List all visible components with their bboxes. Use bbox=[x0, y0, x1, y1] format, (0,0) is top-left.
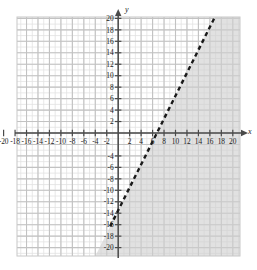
x-tick-label: 2 bbox=[128, 137, 132, 146]
x-tick-label: 12 bbox=[183, 137, 191, 146]
x-tick-label: -10 bbox=[56, 137, 66, 146]
y-tick-label: -20 bbox=[104, 243, 114, 252]
y-tick-label: 8 bbox=[110, 83, 114, 92]
y-tick-label: -18 bbox=[104, 232, 114, 241]
y-tick-label: -8 bbox=[107, 175, 113, 184]
x-tick-label: 10 bbox=[172, 137, 180, 146]
x-tick-label: 16 bbox=[206, 137, 214, 146]
x-tick-label: 8 bbox=[162, 137, 166, 146]
x-tick-label: -14 bbox=[33, 137, 43, 146]
x-tick-label: -20 bbox=[0, 137, 9, 146]
y-tick-label: 4 bbox=[110, 106, 114, 115]
coordinate-plane-figure: -20-18-16-14-12-10-8-6-4-224681012141618… bbox=[0, 0, 257, 270]
x-tick-label: 20 bbox=[229, 137, 237, 146]
y-tick-label: 16 bbox=[106, 37, 114, 46]
y-tick-label: 12 bbox=[106, 60, 114, 69]
y-tick-label: -16 bbox=[104, 220, 114, 229]
y-tick-label: 18 bbox=[106, 26, 114, 35]
y-axis-label: y bbox=[124, 5, 129, 14]
y-tick-label: -12 bbox=[104, 197, 114, 206]
x-tick-label: -8 bbox=[69, 137, 75, 146]
y-tick-label: 6 bbox=[110, 94, 114, 103]
y-tick-label: -4 bbox=[107, 152, 113, 161]
x-tick-label: -2 bbox=[104, 137, 110, 146]
x-tick-label: -18 bbox=[10, 137, 20, 146]
x-tick-label: 6 bbox=[151, 137, 155, 146]
y-tick-label: 10 bbox=[106, 71, 114, 80]
x-tick-label: -12 bbox=[45, 137, 55, 146]
x-tick-label: 18 bbox=[218, 137, 226, 146]
x-tick-label: 14 bbox=[195, 137, 203, 146]
x-tick-label: -16 bbox=[22, 137, 32, 146]
y-tick-label: -14 bbox=[104, 209, 114, 218]
y-tick-label: -10 bbox=[104, 186, 114, 195]
x-tick-label: -4 bbox=[92, 137, 98, 146]
x-tick-label: 4 bbox=[139, 137, 143, 146]
y-tick-label: 14 bbox=[106, 48, 114, 57]
y-tick-label: 2 bbox=[110, 117, 114, 126]
y-tick-label: 20 bbox=[106, 14, 114, 23]
graph-svg: -20-18-16-14-12-10-8-6-4-224681012141618… bbox=[0, 0, 257, 270]
y-tick-label: -6 bbox=[107, 163, 113, 172]
x-tick-label: -6 bbox=[81, 137, 87, 146]
x-axis-label: x bbox=[247, 127, 252, 136]
